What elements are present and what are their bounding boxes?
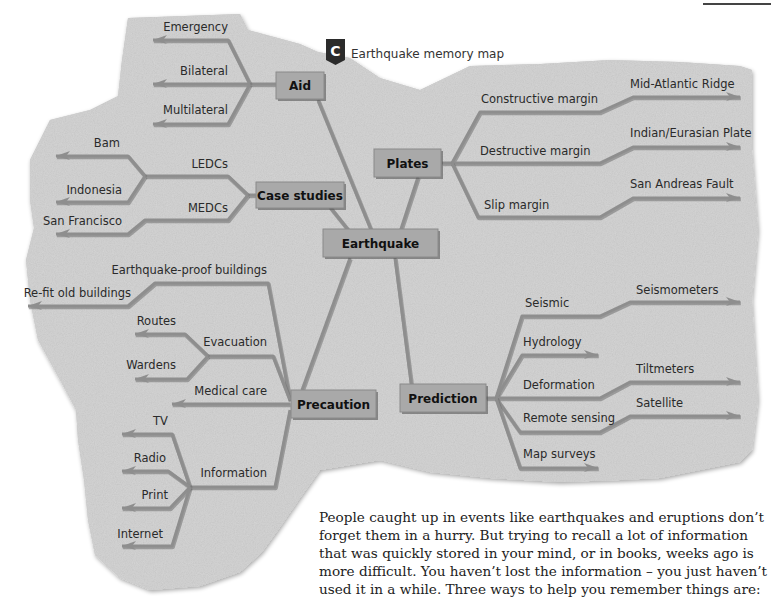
- body-line: forget them in a hurry. But trying to re…: [319, 526, 769, 544]
- label-hydrology: Hydrology: [523, 335, 582, 349]
- node-case-studies-label: Case studies: [257, 189, 343, 203]
- label-deformation: Deformation: [523, 378, 595, 392]
- label-wardens: Wardens: [126, 358, 176, 372]
- node-aid: Aid: [276, 72, 326, 101]
- label-mid-atlantic-ridge: Mid-Atlantic Ridge: [630, 77, 735, 91]
- body-line: People caught up in events like earthqua…: [319, 508, 769, 526]
- node-plates-label: Plates: [386, 157, 428, 171]
- label-internet: Internet: [117, 527, 163, 541]
- node-plates: Plates: [374, 149, 443, 179]
- body-line: that was quickly stored in your mind, or…: [319, 544, 769, 562]
- label-routes: Routes: [137, 314, 176, 328]
- badge-letter: C: [330, 43, 340, 59]
- label-ledcs: LEDCs: [191, 157, 228, 171]
- node-prediction: Prediction: [400, 384, 488, 414]
- label-tiltmeters: Tiltmeters: [635, 362, 694, 376]
- node-aid-label: Aid: [289, 79, 311, 93]
- label-medical-care: Medical care: [194, 384, 267, 398]
- label-multilateral: Multilateral: [163, 103, 228, 117]
- node-case-studies: Case studies: [256, 182, 346, 210]
- label-emergency: Emergency: [163, 20, 228, 34]
- node-precaution: Precaution: [291, 390, 378, 420]
- node-precaution-label: Precaution: [297, 398, 370, 412]
- label-map-surveys: Map surveys: [523, 447, 596, 461]
- label-tv: TV: [152, 414, 168, 428]
- label-information: Information: [200, 466, 267, 480]
- body-line: used it in a while. Three ways to help y…: [319, 580, 769, 598]
- label-seismometers: Seismometers: [636, 283, 718, 297]
- node-prediction-label: Prediction: [408, 392, 477, 406]
- label-earthquake-proof-buildings: Earthquake-proof buildings: [111, 263, 267, 277]
- label-bilateral: Bilateral: [180, 64, 228, 78]
- diagram-title: Earthquake memory map: [351, 47, 504, 61]
- label-slip-margin: Slip margin: [484, 198, 549, 212]
- label-remote-sensing: Remote sensing: [523, 411, 615, 425]
- label-indonesia: Indonesia: [66, 183, 122, 197]
- node-earthquake: Earthquake: [323, 229, 440, 259]
- body-paragraph: People caught up in events like earthqua…: [319, 508, 769, 598]
- label-evacuation: Evacuation: [203, 335, 267, 349]
- label-medcs: MEDCs: [188, 201, 228, 215]
- body-line: more difficult. You haven’t lost the inf…: [319, 562, 769, 580]
- label-radio: Radio: [134, 451, 166, 465]
- label-constructive-margin: Constructive margin: [481, 92, 598, 106]
- label-indian-eurasian-plate: Indian/Eurasian Plate: [630, 126, 752, 140]
- label-destructive-margin: Destructive margin: [480, 144, 591, 158]
- label-san-andreas-fault: San Andreas Fault: [630, 177, 734, 191]
- label-satellite: Satellite: [636, 396, 683, 410]
- label-print: Print: [142, 488, 169, 502]
- label-refit-old-buildings: Re-fit old buildings: [24, 286, 131, 300]
- label-bam: Bam: [94, 136, 120, 150]
- label-san-francisco: San Francisco: [43, 214, 122, 228]
- node-earthquake-label: Earthquake: [342, 237, 420, 251]
- label-seismic: Seismic: [525, 296, 569, 310]
